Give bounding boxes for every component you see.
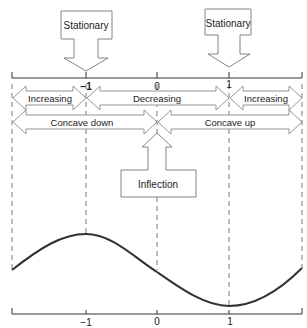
- stationary-label-right: Stationary: [205, 18, 250, 29]
- bottom-tick-neg1: −1: [80, 317, 92, 328]
- bottom-tick-1: 1: [227, 316, 233, 327]
- top-tick-neg1: −1: [80, 81, 92, 92]
- decreasing-label: Decreasing: [133, 93, 181, 104]
- inflection-label: Inflection: [138, 179, 178, 190]
- stationary-label-left: Stationary: [63, 20, 108, 31]
- top-axis: [12, 72, 302, 78]
- concave-up-label: Concave up: [205, 117, 256, 128]
- concave-down-label: Concave down: [51, 117, 114, 128]
- top-tick-1: 1: [226, 79, 232, 90]
- calculus-diagram: −1 0 1 Stationary Stationary Increasing …: [0, 0, 307, 328]
- bottom-axis: [12, 308, 302, 314]
- increasing-label-left: Increasing: [28, 93, 72, 104]
- top-tick-0: 0: [154, 81, 160, 92]
- bottom-tick-0: 0: [154, 316, 160, 327]
- increasing-label-right: Increasing: [244, 93, 288, 104]
